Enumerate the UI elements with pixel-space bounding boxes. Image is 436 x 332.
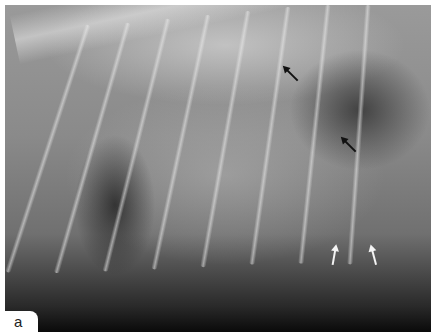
rib-shadow [347,5,371,265]
panel-label: a [14,313,22,330]
rib-shadow [53,22,130,274]
rib-shadow [5,24,91,273]
rib-shadow [200,10,251,267]
rib-shadow [298,5,331,264]
rib-shadow [249,7,291,265]
radiograph-image [5,5,431,332]
